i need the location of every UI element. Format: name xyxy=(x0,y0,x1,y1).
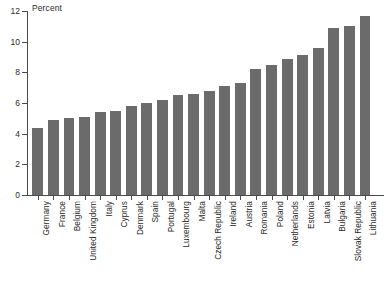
x-axis-tick-label: Poland xyxy=(275,201,285,227)
x-axis-tick-label: Austria xyxy=(244,201,254,227)
y-axis-tick xyxy=(22,195,27,196)
x-axis-tick xyxy=(225,196,226,200)
bar[interactable] xyxy=(95,112,106,195)
bar[interactable] xyxy=(297,55,308,195)
x-axis-tick-label: Romania xyxy=(259,201,269,235)
y-axis-tick xyxy=(22,103,27,104)
bar[interactable] xyxy=(110,111,121,195)
x-axis-tick xyxy=(116,196,117,200)
x-axis-tick xyxy=(38,196,39,200)
y-axis-tick xyxy=(22,42,27,43)
bar[interactable] xyxy=(235,83,246,195)
x-axis-tick xyxy=(318,196,319,200)
x-axis-tick xyxy=(256,196,257,200)
x-axis-tick-label: Italy xyxy=(104,201,114,216)
bar[interactable] xyxy=(250,69,261,195)
y-axis-tick xyxy=(22,72,27,73)
bar[interactable] xyxy=(219,86,230,195)
y-axis-tick-label: 6 xyxy=(0,98,20,108)
x-axis-tick-label: Denmark xyxy=(135,201,145,235)
x-axis-tick xyxy=(85,196,86,200)
x-axis-tick xyxy=(303,196,304,200)
y-axis-tick-label: 2 xyxy=(0,159,20,169)
x-axis-tick-label: Slovak Republic xyxy=(353,201,363,261)
x-axis-tick xyxy=(178,196,179,200)
x-axis-tick-label: Czech Republic xyxy=(213,201,223,260)
y-axis-tick-label: 4 xyxy=(0,129,20,139)
bar[interactable] xyxy=(188,94,199,195)
x-axis-tick-label: Malta xyxy=(197,201,207,222)
x-axis-tick xyxy=(147,196,148,200)
y-axis-tick-label: 12 xyxy=(0,6,20,16)
x-axis-tick xyxy=(349,196,350,200)
x-axis-tick xyxy=(334,196,335,200)
x-axis-tick-label: Ireland xyxy=(228,201,238,227)
bar[interactable] xyxy=(173,95,184,195)
x-axis-tick-label: Germany xyxy=(41,201,51,235)
bar[interactable] xyxy=(48,120,59,195)
x-axis-tick-label: France xyxy=(57,201,67,227)
bar[interactable] xyxy=(32,128,43,195)
bar[interactable] xyxy=(141,103,152,195)
x-axis-tick-label: Latvia xyxy=(322,201,332,223)
x-axis-tick-label: Spain xyxy=(150,201,160,222)
x-axis-tick xyxy=(287,196,288,200)
y-axis-tick xyxy=(22,164,27,165)
x-axis-tick-label: Belgium xyxy=(72,201,82,231)
bar[interactable] xyxy=(64,118,75,195)
bars-layer xyxy=(28,11,384,195)
x-axis-tick-label: Netherlands xyxy=(290,201,300,246)
x-axis-tick-label: Lithuania xyxy=(368,201,378,235)
bar[interactable] xyxy=(344,26,355,195)
x-axis-tick-label: Luxembourg xyxy=(181,201,191,248)
x-axis-tick-label: Estonia xyxy=(306,201,316,229)
x-axis-tick xyxy=(100,196,101,200)
bar[interactable] xyxy=(157,100,168,195)
bar[interactable] xyxy=(266,65,277,195)
x-axis-tick-label: Portugal xyxy=(166,201,176,232)
x-axis-tick xyxy=(209,196,210,200)
x-axis-tick xyxy=(365,196,366,200)
bar[interactable] xyxy=(204,91,215,195)
x-axis-tick xyxy=(53,196,54,200)
bar[interactable] xyxy=(328,28,339,195)
x-axis-tick xyxy=(69,196,70,200)
x-axis-line xyxy=(27,195,384,196)
x-axis-tick-label: Cyprus xyxy=(119,201,129,228)
bar[interactable] xyxy=(126,106,137,195)
x-axis-tick xyxy=(162,196,163,200)
x-axis-tick-label: United Kingdom xyxy=(88,201,98,261)
bar[interactable] xyxy=(79,117,90,195)
x-axis-tick xyxy=(131,196,132,200)
bar[interactable] xyxy=(313,48,324,195)
x-axis-tick xyxy=(240,196,241,200)
y-axis-tick-label: 0 xyxy=(0,190,20,200)
y-axis-tick xyxy=(22,11,27,12)
y-axis-tick-label: 10 xyxy=(0,37,20,47)
x-axis-tick-label: Bulgaria xyxy=(337,201,347,232)
x-axis-tick xyxy=(272,196,273,200)
bar-chart: Percent 024681012 GermanyFranceBelgiumUn… xyxy=(0,0,389,283)
bar[interactable] xyxy=(360,16,371,195)
x-axis-tick xyxy=(194,196,195,200)
y-axis-tick-label: 8 xyxy=(0,67,20,77)
bar[interactable] xyxy=(282,59,293,195)
y-axis-tick xyxy=(22,134,27,135)
